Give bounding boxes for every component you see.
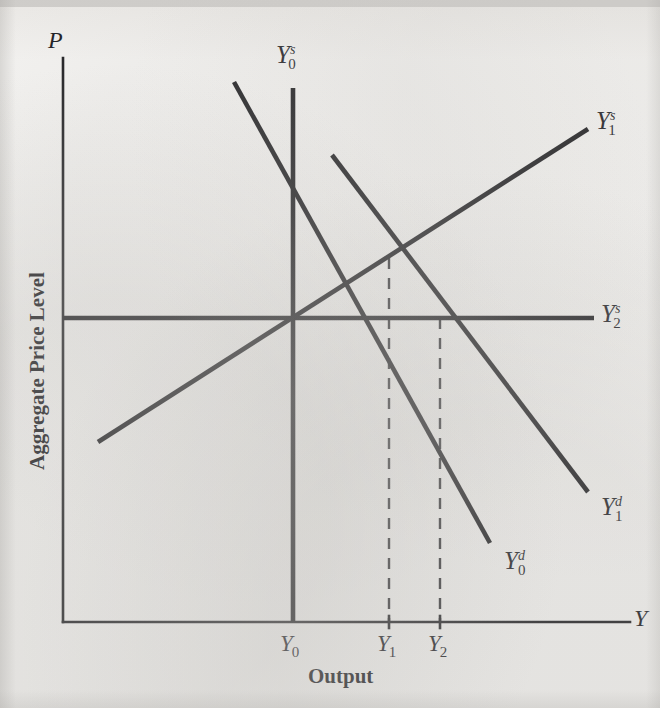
aggregate-supply-demand-diagram — [0, 0, 660, 708]
figure-page: P Y Aggregate Price Level Output Ys0 Ys1… — [0, 0, 660, 708]
